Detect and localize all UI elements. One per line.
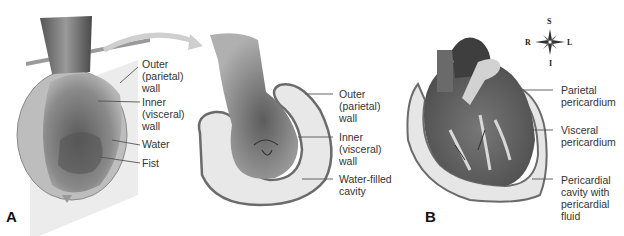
label-water-filled-cavity: Water-filled cavity: [339, 173, 392, 197]
label-fist: Fist: [142, 157, 159, 169]
label-parietal-pericardium: Parietal pericardium: [561, 84, 616, 108]
balloon-illustration: [17, 16, 150, 236]
compass-inferior: I: [549, 59, 552, 68]
diagram-artwork: [0, 0, 624, 236]
label-visceral-pericardium: Visceral pericardium: [561, 124, 616, 148]
compass-rose-icon: [535, 29, 565, 55]
label-pericardial-cavity: Pericardial cavity with pericardial flui…: [561, 174, 611, 222]
heart-illustration: [407, 38, 546, 202]
panel-letter-a: A: [6, 208, 17, 225]
compass-left: L: [567, 38, 572, 47]
label-outer-parietal-wall-cutaway: Outer (parietal) wall: [339, 88, 380, 124]
label-water: Water: [142, 138, 170, 150]
label-outer-parietal-wall-balloon: Outer (parietal) wall: [142, 58, 183, 94]
label-inner-visceral-wall-cutaway: Inner (visceral) wall: [339, 131, 382, 167]
panel-letter-b: B: [425, 208, 436, 225]
label-inner-visceral-wall-balloon: Inner (visceral) wall: [142, 96, 185, 132]
compass-superior: S: [547, 17, 551, 26]
compass-right: R: [525, 38, 531, 47]
